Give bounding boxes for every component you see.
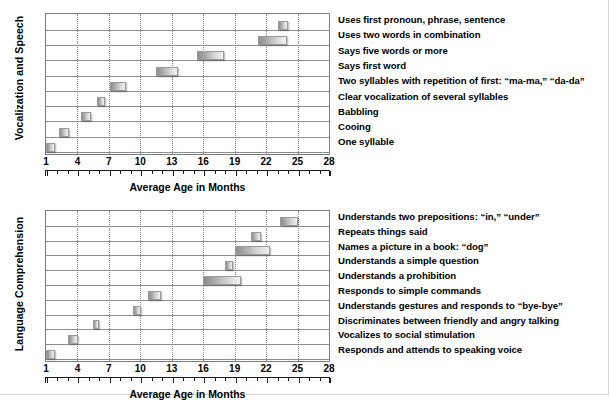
milestone-baseline — [46, 76, 329, 77]
major-tick-10 — [141, 171, 142, 176]
minor-tick-6 — [99, 378, 100, 381]
major-tick-25 — [299, 171, 300, 176]
major-tick-16 — [204, 171, 205, 176]
milestone-label: Repeats things said — [338, 226, 428, 237]
minor-tick-9 — [131, 171, 132, 174]
minor-tick-21 — [257, 378, 258, 381]
minor-tick-18 — [225, 171, 226, 174]
major-tick-25 — [299, 378, 300, 383]
minor-tick-24 — [288, 378, 289, 381]
minor-tick-17 — [215, 171, 216, 174]
x-axis-title-language-comprehension: Average Age in Months — [45, 388, 330, 400]
milestone-label: Clear vocalization of several syllables — [338, 91, 508, 102]
minor-tick-12 — [162, 378, 163, 381]
minor-tick-9 — [131, 378, 132, 381]
milestone-bar — [46, 350, 55, 359]
milestone-label: Understands two prepositions: “in,” “und… — [338, 211, 539, 222]
milestone-bar — [278, 21, 288, 30]
major-tick-22 — [267, 378, 268, 383]
x-tick-label-19: 19 — [229, 156, 240, 167]
x-tick-label-16: 16 — [198, 363, 209, 374]
x-tick-label-25: 25 — [292, 156, 303, 167]
milestone-baseline — [46, 226, 329, 227]
x-axis-vocalization: 14710131619222528 — [45, 156, 330, 184]
chart-panel-language-comprehension: Language Comprehension 14710131619222528… — [0, 196, 610, 396]
gridline-month-19 — [235, 14, 236, 154]
milestone-label: Uses first pronoun, phrase, sentence — [338, 14, 505, 25]
x-tick-label-25: 25 — [292, 363, 303, 374]
major-tick-19 — [236, 378, 237, 383]
major-tick-7 — [110, 378, 111, 383]
gridline-month-16 — [203, 14, 204, 154]
milestone-label: Uses two words in combination — [338, 29, 480, 40]
milestone-baseline — [46, 359, 329, 360]
milestone-bar — [59, 128, 69, 137]
milestone-baseline — [46, 152, 329, 153]
x-tick-label-19: 19 — [229, 363, 240, 374]
major-tick-22 — [267, 171, 268, 176]
x-tick-label-16: 16 — [198, 156, 209, 167]
milestone-bar — [280, 217, 298, 226]
minor-tick-14 — [183, 171, 184, 174]
minor-tick-11 — [152, 171, 153, 174]
milestone-baseline — [46, 137, 329, 138]
x-tick-label-22: 22 — [261, 363, 272, 374]
major-tick-10 — [141, 378, 142, 383]
milestone-baseline — [46, 270, 329, 271]
minor-tick-5 — [89, 378, 90, 381]
x-tick-label-1: 1 — [43, 156, 49, 167]
minor-tick-3 — [68, 378, 69, 381]
major-tick-16 — [204, 378, 205, 383]
milestone-label: One syllable — [338, 136, 394, 147]
milestone-baseline — [46, 60, 329, 61]
gridline-month-13 — [172, 14, 173, 154]
milestone-label: Says five words or more — [338, 45, 448, 56]
milestone-label: Understands a prohibition — [338, 270, 456, 281]
minor-tick-15 — [194, 171, 195, 174]
plot-area-language-comprehension — [45, 210, 330, 362]
milestone-bar — [68, 335, 78, 344]
minor-tick-3 — [68, 171, 69, 174]
minor-tick-18 — [225, 378, 226, 381]
milestone-label: Understands gestures and responds to “by… — [338, 300, 563, 311]
y-axis-title-language-comprehension: Language Comprehension — [13, 204, 25, 364]
milestone-baseline — [46, 285, 329, 286]
milestone-baseline — [46, 300, 329, 301]
x-tick-label-22: 22 — [261, 156, 272, 167]
x-tick-label-1: 1 — [43, 363, 49, 374]
plot-area-vocalization — [45, 13, 330, 155]
gridline-month-4 — [77, 14, 78, 154]
milestone-bar — [251, 232, 260, 241]
x-tick-label-10: 10 — [135, 156, 146, 167]
minor-tick-11 — [152, 378, 153, 381]
milestone-label: Vocalizes to social stimulation — [338, 329, 475, 340]
milestone-bar — [148, 291, 162, 300]
x-axis-language-comprehension: 14710131619222528 — [45, 363, 330, 391]
gridline-month-25 — [298, 14, 299, 154]
minor-tick-8 — [120, 171, 121, 174]
milestone-baseline — [46, 329, 329, 330]
milestone-label: Cooing — [338, 121, 371, 132]
minor-tick-20 — [246, 378, 247, 381]
major-tick-4 — [78, 171, 79, 176]
x-tick-label-7: 7 — [106, 363, 112, 374]
gridline-month-28 — [329, 14, 330, 154]
milestone-label: Says first word — [338, 60, 406, 71]
milestone-label: Babbling — [338, 106, 379, 117]
minor-tick-15 — [194, 378, 195, 381]
gridline-month-19 — [235, 211, 236, 361]
x-tick-label-4: 4 — [75, 156, 81, 167]
x-axis-ruler — [45, 377, 330, 383]
y-axis-title-vocalization: Vocalization and Speech — [13, 0, 25, 158]
minor-tick-23 — [278, 378, 279, 381]
minor-tick-27 — [320, 171, 321, 174]
minor-tick-17 — [215, 378, 216, 381]
milestone-bar — [235, 246, 271, 255]
minor-tick-23 — [278, 171, 279, 174]
major-tick-7 — [110, 171, 111, 176]
milestone-baseline — [46, 121, 329, 122]
minor-tick-21 — [257, 171, 258, 174]
milestone-bar — [110, 82, 126, 91]
milestone-baseline — [46, 91, 329, 92]
milestone-bar — [46, 143, 55, 152]
